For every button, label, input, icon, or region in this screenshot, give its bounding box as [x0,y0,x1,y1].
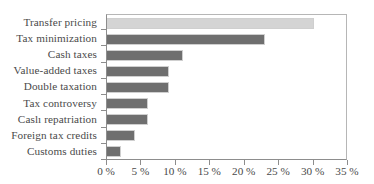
x-axis: 0 %5 %10 %15 %20 %25 %30 %35 % [106,160,347,184]
category-label: Double taxation [0,79,102,95]
x-axis-tick-label: 25 % [266,166,289,177]
category-label: Foreign tax credits [0,128,102,144]
category-axis: Transfer pricingTax minimizationCash tax… [0,14,102,160]
bar [107,114,148,125]
category-label: Transfer pricing [0,14,102,30]
bar-row [107,127,346,143]
category-label: Customs duties [0,144,102,160]
x-axis-tick-label: 30 % [301,166,324,177]
bar-row [107,95,346,111]
bar-series [107,15,346,159]
bar-row [107,63,346,79]
category-label: Value-added taxes [0,63,102,79]
x-axis-tick-label: 0 % [97,166,115,177]
bar [107,66,169,77]
category-label: Tax controversy [0,95,102,111]
bar-row [107,111,346,127]
category-label: Caslı repatriation [0,111,102,127]
plot-area [106,14,347,160]
bar-row [107,79,346,95]
x-axis-tick-label: 10 % [163,166,186,177]
bar-row [107,15,346,31]
bar [107,146,121,157]
bar-row [107,31,346,47]
bar [107,50,183,61]
category-label: Tax minimization [0,30,102,46]
bar [107,130,135,141]
x-axis-tick-label: 5 % [132,166,150,177]
x-axis-tick-label: 15 % [198,166,221,177]
category-label: Cash taxes [0,46,102,62]
bar [107,82,169,93]
bar-row [107,47,346,63]
x-axis-tick-label: 35 % [335,166,358,177]
bar [107,98,148,109]
bar [107,34,265,45]
bar-chart: Transfer pricingTax minimizationCash tax… [0,0,374,184]
bar-row [107,143,346,159]
bar [107,18,314,29]
x-axis-tick-label: 20 % [232,166,255,177]
